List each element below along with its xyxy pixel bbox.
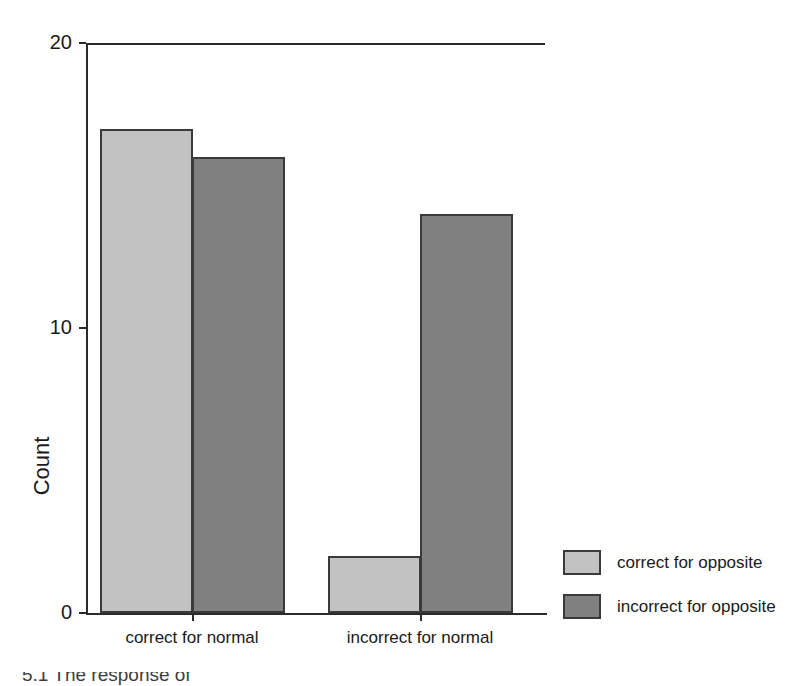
y-tick-label-20: 20 (32, 32, 72, 52)
legend-label-correct-for-opposite: correct for opposite (617, 553, 763, 572)
figure-caption-fragment: 5.1 The response of (22, 672, 762, 686)
x-axis-baseline (86, 613, 547, 615)
y-tick-mark-20 (79, 42, 86, 44)
y-tick-mark-10 (79, 327, 86, 329)
bar-chart-figure: 20 10 0 Count correct for normal incorre… (0, 0, 788, 686)
x-tick-label-incorrect-normal: incorrect for normal (320, 628, 520, 648)
y-tick-label-10: 10 (32, 317, 72, 337)
legend-entry-correct-for-opposite: correct for opposite (563, 540, 776, 584)
bar-incorrect-normal-incorrect-opposite (420, 214, 513, 613)
legend-entry-incorrect-for-opposite: incorrect for opposite (563, 584, 776, 628)
x-tick-mark-correct-normal (192, 613, 194, 621)
y-axis-title: Count (31, 406, 53, 526)
bar-correct-normal-correct-opposite (100, 129, 193, 613)
y-tick-mark-0 (79, 612, 86, 614)
bar-incorrect-normal-correct-opposite (328, 556, 421, 613)
y-tick-label-0: 0 (32, 602, 72, 622)
legend-swatch-correct-for-opposite (563, 550, 601, 575)
bar-correct-normal-incorrect-opposite (192, 157, 285, 613)
x-tick-label-correct-normal: correct for normal (92, 628, 292, 648)
legend-label-incorrect-for-opposite: incorrect for opposite (617, 597, 776, 616)
x-tick-mark-incorrect-normal (420, 613, 422, 621)
legend: correct for opposite incorrect for oppos… (563, 540, 776, 628)
figure-caption-text: 5.1 The response of (22, 672, 762, 684)
legend-swatch-incorrect-for-opposite (563, 594, 601, 619)
